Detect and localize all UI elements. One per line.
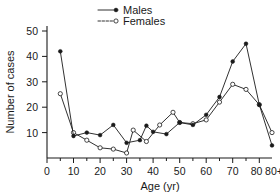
females-data-point	[58, 92, 62, 96]
x-tick-label-40: 40	[147, 165, 159, 177]
males-data-point	[257, 103, 261, 107]
legend-males-marker-icon	[114, 8, 118, 12]
males-data-point	[151, 130, 155, 134]
males-data-point	[191, 123, 195, 127]
males-data-point	[145, 124, 149, 128]
x-tick-label-80: 80	[251, 165, 263, 177]
males-data-point	[125, 141, 129, 145]
females-data-point	[144, 139, 148, 143]
females-data-point	[244, 87, 248, 91]
y-tick-label-40: 40	[26, 50, 38, 62]
males-data-point	[244, 42, 248, 46]
chart-legend: Males Females	[98, 4, 166, 27]
x-tick-label-0: 0	[44, 165, 50, 177]
males-data-point	[270, 144, 274, 148]
x-tick-label-30: 30	[121, 165, 133, 177]
females-data-point	[158, 123, 162, 127]
females-line-path	[60, 84, 272, 153]
x-tick-label-70: 70	[227, 165, 239, 177]
x-axis-title: Age (yr)	[140, 180, 179, 192]
x-tick-label-80plus: 80+	[265, 165, 280, 177]
females-data-point	[217, 100, 221, 104]
males-data-point	[72, 134, 76, 138]
males-data-point	[204, 113, 208, 117]
females-data-point	[270, 131, 274, 135]
x-tick-label-20: 20	[94, 165, 106, 177]
males-data-point	[178, 121, 182, 125]
females-data-point	[131, 128, 135, 132]
y-tick-label-30: 30	[26, 76, 38, 88]
males-data-point	[111, 123, 115, 127]
females-data-point	[98, 146, 102, 150]
females-data-point	[85, 138, 89, 142]
males-data-point	[58, 49, 62, 53]
x-tick-label-10: 10	[68, 165, 80, 177]
y-axis-title: Number of cases	[4, 50, 16, 134]
x-axis-ticks: 0 10 20 30 40 50 60 70 80 80+	[44, 158, 280, 177]
chart-axes	[47, 26, 272, 158]
males-data-point	[218, 95, 222, 99]
y-tick-label-10: 10	[26, 127, 38, 139]
y-tick-label-20: 20	[26, 101, 38, 113]
females-data-point	[231, 82, 235, 86]
legend-label-females: Females	[123, 15, 166, 27]
males-data-point	[138, 138, 142, 142]
legend-females-marker-icon	[114, 19, 118, 23]
females-data-point	[204, 118, 208, 122]
males-data-point	[231, 60, 235, 64]
females-data-point	[111, 147, 115, 151]
age-distribution-line-chart: Males Females 10 20 30 40 50	[0, 0, 280, 194]
females-data-point	[171, 110, 175, 114]
y-axis-ticks: 10 20 30 40 50	[26, 25, 47, 139]
x-tick-label-60: 60	[200, 165, 212, 177]
males-data-point	[85, 131, 89, 135]
males-data-point	[98, 133, 102, 137]
males-line-path	[60, 44, 272, 146]
y-tick-label-50: 50	[26, 25, 38, 37]
males-data-point	[165, 132, 169, 136]
series-males	[58, 42, 274, 148]
chart-figure: Males Females 10 20 30 40 50	[0, 0, 280, 194]
x-tick-label-50: 50	[174, 165, 186, 177]
females-data-point	[125, 151, 129, 155]
series-females	[58, 82, 274, 155]
